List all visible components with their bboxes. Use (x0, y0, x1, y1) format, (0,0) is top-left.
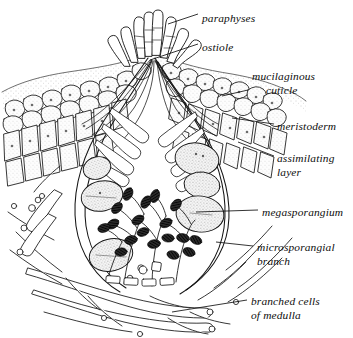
label-assimilating-line1: assimilating (277, 152, 335, 164)
label-paraphyses: paraphyses (201, 12, 256, 24)
label-megasporangium: megasporangium (262, 206, 343, 218)
label-medulla-line2: of medulla (251, 309, 301, 321)
label-mucilaginous-cuticle-line1: mucilaginous (252, 70, 316, 82)
conceptacle-diagram: paraphyses ostiole mucilaginous cuticle … (0, 0, 353, 338)
label-meristoderm: meristoderm (277, 120, 336, 132)
label-ostiole: ostiole (202, 41, 233, 53)
label-microsporangial-line2: branch (257, 255, 290, 267)
label-microsporangial-line1: microsporangial (257, 241, 335, 253)
label-mucilaginous-cuticle-line2: cuticle (266, 84, 297, 96)
label-assimilating-line2: layer (277, 166, 302, 178)
label-medulla-line1: branched cells (251, 295, 320, 307)
